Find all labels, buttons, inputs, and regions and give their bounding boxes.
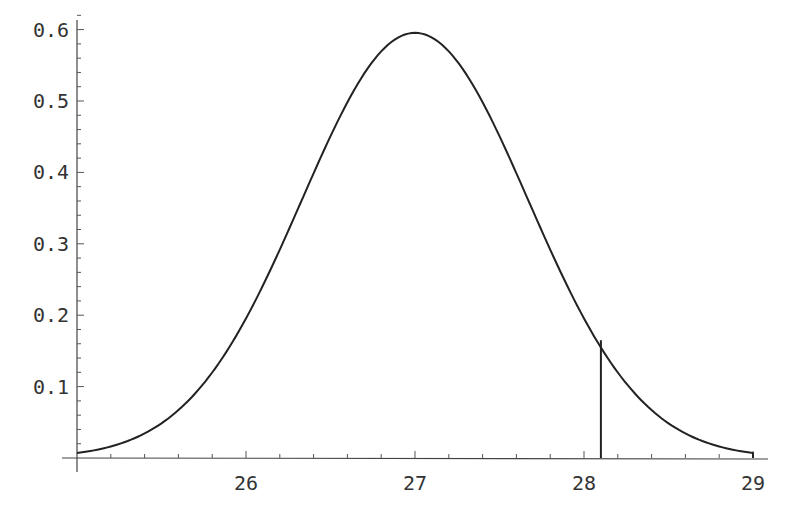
x-tick-label: 26: [234, 471, 258, 495]
y-tick-label: 0.2: [33, 303, 69, 327]
y-tick-label: 0.5: [33, 89, 69, 113]
x-axis: [62, 451, 768, 459]
x-tick-label: 27: [403, 471, 427, 495]
x-tick-label: 28: [572, 471, 596, 495]
normal-density-chart: 0.10.20.30.40.50.626272829: [0, 0, 785, 507]
x-axis-line: [62, 458, 768, 459]
y-tick-label: 0.6: [33, 18, 69, 42]
x-tick-label: 29: [741, 471, 765, 495]
y-tick-label: 0.4: [33, 160, 69, 184]
y-tick-label: 0.3: [33, 232, 69, 256]
density-curve: [77, 33, 753, 458]
tick-labels: 0.10.20.30.40.50.626272829: [33, 18, 765, 495]
y-tick-label: 0.1: [33, 375, 69, 399]
y-axis: [77, 15, 84, 472]
